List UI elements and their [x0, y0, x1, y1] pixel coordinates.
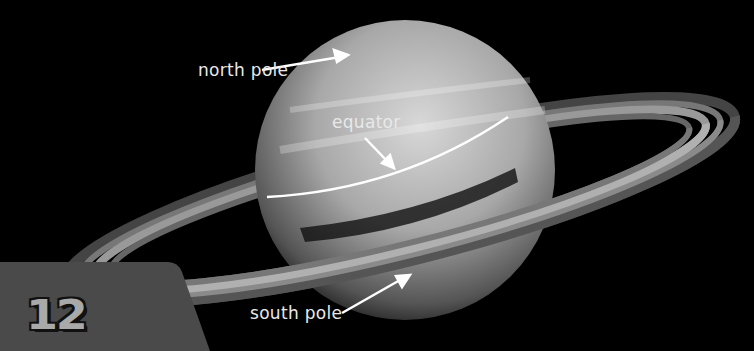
north-pole-label: north pole — [198, 60, 288, 80]
saturn-illustration: north pole equator south pole 12 — [0, 0, 754, 351]
equator-label: equator — [332, 112, 401, 132]
south-pole-label: south pole — [250, 303, 342, 323]
page-number: 12 — [26, 292, 85, 338]
saturn-graphic — [0, 0, 754, 351]
